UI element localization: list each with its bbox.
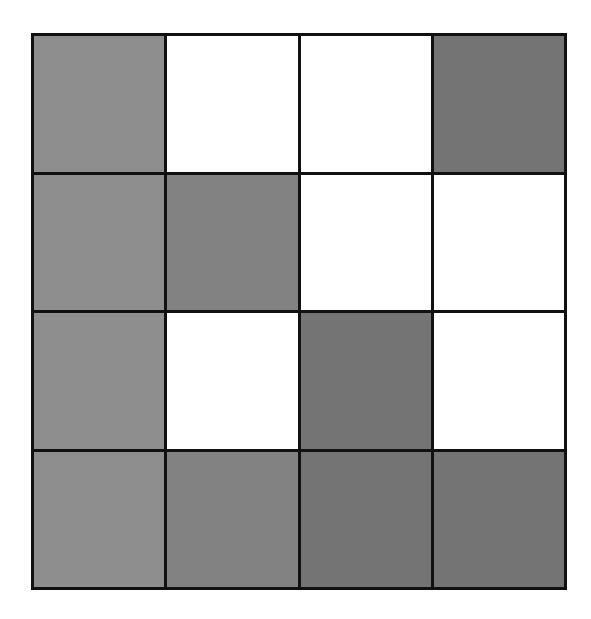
grid-cell-r4-c3-dark	[301, 452, 431, 588]
grid-cell-r3-c4-white	[434, 313, 564, 449]
grid-cell-r1-c3-white	[301, 36, 431, 172]
grid-cell-r2-c2-mid	[167, 175, 297, 311]
grid-cell-r2-c3-white	[301, 175, 431, 311]
grid-cell-r4-c1-gray	[34, 452, 164, 588]
grid-cell-r2-c4-white	[434, 175, 564, 311]
grid-cell-r1-c2-white	[167, 36, 297, 172]
grid-cell-r3-c2-white	[167, 313, 297, 449]
grid-cell-r1-c4-dark	[434, 36, 564, 172]
grid-cell-r2-c1-gray	[34, 175, 164, 311]
shaded-grid	[31, 33, 567, 590]
grid-cell-r3-c1-gray	[34, 313, 164, 449]
grid-cell-r4-c4-dark	[434, 452, 564, 588]
grid-cell-r1-c1-gray	[34, 36, 164, 172]
grid-cell-r3-c3-dark	[301, 313, 431, 449]
grid-cell-r4-c2-mid	[167, 452, 297, 588]
